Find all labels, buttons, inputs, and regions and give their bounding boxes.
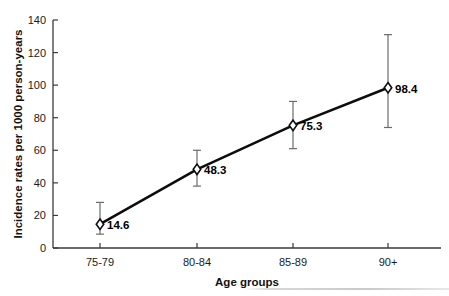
y-tick-label: 80: [34, 112, 46, 124]
data-point-marker: [384, 83, 391, 93]
incidence-series-line: [100, 88, 388, 224]
data-point-label: 98.4: [395, 83, 418, 95]
error-bars-group: [96, 35, 392, 235]
y-tick-label: 20: [34, 209, 46, 221]
page-edge-artifact: [243, 288, 449, 290]
error-bar: [384, 35, 392, 128]
data-point-marker: [289, 120, 296, 130]
y-tick-label: 140: [28, 14, 46, 26]
y-tick-label: 0: [40, 242, 46, 254]
y-axis-title: Incidence rates per 1000 person-years: [12, 29, 24, 238]
data-point-value-labels: 14.648.375.398.4: [107, 83, 418, 231]
x-tick-label: 90+: [379, 256, 398, 268]
x-tick-label: 75-79: [86, 256, 114, 268]
data-point-label: 48.3: [204, 164, 226, 176]
data-point-label: 75.3: [300, 120, 322, 132]
data-point-marker: [193, 164, 200, 174]
y-tick-label: 60: [34, 144, 46, 156]
x-axis-tick-labels: 75-7980-8485-8990+: [86, 256, 397, 268]
data-point-label: 14.6: [107, 219, 129, 231]
chart-figure: 020406080100120140 75-7980-8485-8990+ 14…: [0, 0, 449, 296]
incidence-rate-line-chart: 020406080100120140 75-7980-8485-8990+ 14…: [0, 0, 449, 296]
x-tick-label: 85-89: [279, 256, 307, 268]
x-axis-title: Age groups: [215, 276, 279, 288]
y-axis-tick-labels: 020406080100120140: [28, 14, 46, 254]
data-point-marker: [96, 219, 103, 229]
x-axis-tick-marks: [100, 243, 388, 248]
y-tick-label: 40: [34, 177, 46, 189]
y-tick-label: 100: [28, 79, 46, 91]
x-tick-label: 80-84: [183, 256, 211, 268]
y-tick-label: 120: [28, 47, 46, 59]
y-axis-tick-marks: [53, 20, 58, 248]
